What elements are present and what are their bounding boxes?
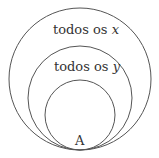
middle-set-label: todos os y — [54, 59, 121, 74]
outer-set-label: todos os x — [53, 22, 120, 37]
inner-set-label: A — [74, 133, 85, 148]
euler-diagram: todos os x todos os y A — [0, 0, 159, 158]
